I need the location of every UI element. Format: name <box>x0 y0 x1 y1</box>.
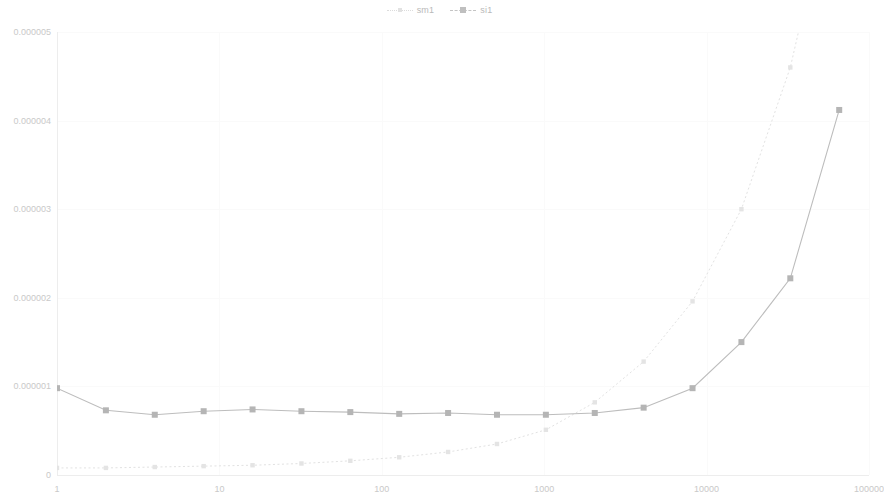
data-point-marker[interactable] <box>592 410 598 416</box>
data-point-marker[interactable] <box>641 359 645 363</box>
data-point-marker[interactable] <box>348 459 352 463</box>
data-point-marker[interactable] <box>250 463 254 467</box>
data-point-marker[interactable] <box>494 412 500 418</box>
data-point-marker[interactable] <box>152 412 158 418</box>
data-point-marker[interactable] <box>396 411 402 417</box>
data-point-marker[interactable] <box>250 406 256 412</box>
data-point-marker[interactable] <box>495 442 499 446</box>
data-point-marker[interactable] <box>446 450 450 454</box>
data-point-marker[interactable] <box>690 299 694 303</box>
data-point-marker[interactable] <box>298 408 304 414</box>
data-point-marker[interactable] <box>593 400 597 404</box>
data-point-marker[interactable] <box>397 455 401 459</box>
data-point-marker[interactable] <box>55 466 59 470</box>
data-point-marker[interactable] <box>54 385 60 391</box>
data-point-marker[interactable] <box>347 409 353 415</box>
data-point-marker[interactable] <box>788 65 792 69</box>
data-point-marker[interactable] <box>836 107 842 113</box>
data-point-marker[interactable] <box>738 339 744 345</box>
data-point-marker[interactable] <box>299 461 303 465</box>
data-point-marker[interactable] <box>103 407 109 413</box>
data-point-marker[interactable] <box>543 412 549 418</box>
data-point-marker[interactable] <box>104 466 108 470</box>
data-point-marker[interactable] <box>739 207 743 211</box>
data-point-marker[interactable] <box>153 465 157 469</box>
series-si1 <box>54 107 842 418</box>
series-line-sm1 <box>57 0 839 468</box>
data-point-marker[interactable] <box>544 428 548 432</box>
data-point-marker[interactable] <box>641 405 647 411</box>
data-point-marker[interactable] <box>201 464 205 468</box>
data-point-marker[interactable] <box>445 410 451 416</box>
data-point-marker[interactable] <box>201 408 207 414</box>
data-point-marker[interactable] <box>690 385 696 391</box>
data-point-marker[interactable] <box>787 275 793 281</box>
series-sm1 <box>55 0 839 470</box>
series-line-si1 <box>57 110 839 415</box>
